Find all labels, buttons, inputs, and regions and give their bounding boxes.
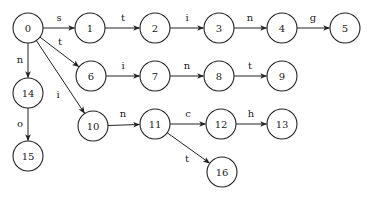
- node-label: 14: [22, 88, 35, 99]
- node-label: 15: [22, 151, 35, 162]
- node-13: 13: [267, 109, 297, 139]
- node-5: 5: [330, 13, 360, 43]
- node-label: 10: [87, 121, 100, 132]
- edge-label: n: [184, 60, 191, 71]
- node-label: 9: [279, 71, 285, 82]
- node-6: 6: [76, 61, 106, 91]
- node-8: 8: [204, 61, 234, 91]
- edge-10-11: n: [108, 108, 140, 126]
- node-7: 7: [140, 61, 170, 91]
- node-label: 0: [25, 23, 31, 34]
- edge-6-7: i: [106, 60, 140, 76]
- edge-label: i: [121, 60, 124, 71]
- edge-1-2: t: [105, 12, 140, 28]
- edge-0-6: t: [40, 36, 79, 67]
- trie-diagram: stingtintnoincht 01234567891415101112131…: [0, 0, 368, 202]
- edge-label: n: [120, 108, 127, 119]
- node-label: 1: [87, 23, 93, 34]
- edge-label: i: [56, 89, 59, 100]
- node-label: 13: [276, 119, 289, 130]
- edge-label: t: [248, 60, 252, 71]
- node-16: 16: [207, 157, 237, 187]
- edge-0-1: s: [43, 12, 75, 28]
- edge-3-4: n: [234, 12, 267, 28]
- node-label: 8: [216, 71, 222, 82]
- edge-11-16: t: [167, 133, 209, 164]
- edge-label: t: [185, 153, 189, 164]
- edge-label: t: [121, 12, 125, 23]
- node-1: 1: [75, 13, 105, 43]
- node-4: 4: [267, 13, 297, 43]
- edge-label: i: [185, 12, 188, 23]
- edge-14-15: o: [17, 108, 28, 141]
- node-label: 11: [149, 119, 162, 130]
- node-label: 2: [152, 23, 158, 34]
- edge-0-14: n: [17, 43, 28, 78]
- edge-label: t: [58, 36, 62, 47]
- edge-label: s: [56, 12, 61, 23]
- edge-2-3: i: [170, 12, 204, 28]
- node-11: 11: [140, 109, 170, 139]
- node-label: 16: [216, 167, 229, 178]
- edge-4-5: g: [297, 12, 330, 28]
- node-2: 2: [140, 13, 170, 43]
- node-12: 12: [206, 109, 236, 139]
- node-3: 3: [204, 13, 234, 43]
- edge-label: n: [247, 12, 254, 23]
- node-label: 5: [342, 23, 348, 34]
- node-14: 14: [13, 78, 43, 108]
- diagram-canvas: stingtintnoincht 01234567891415101112131…: [0, 0, 368, 202]
- arrow-icon: [108, 124, 140, 125]
- edge-label: n: [17, 54, 24, 65]
- node-label: 6: [88, 71, 94, 82]
- node-label: 12: [215, 119, 228, 130]
- edge-11-12: c: [170, 108, 206, 124]
- node-0: 0: [13, 13, 43, 43]
- node-label: 3: [216, 23, 222, 34]
- edge-label: c: [185, 108, 191, 119]
- node-9: 9: [267, 61, 297, 91]
- edge-label: g: [310, 12, 317, 23]
- node-label: 4: [279, 23, 285, 34]
- edge-label: o: [17, 118, 23, 129]
- node-label: 7: [152, 71, 158, 82]
- node-15: 15: [13, 141, 43, 171]
- edge-8-9: t: [234, 60, 267, 76]
- node-10: 10: [78, 111, 108, 141]
- edge-label: h: [248, 108, 255, 119]
- edge-7-8: n: [170, 60, 204, 76]
- edge-12-13: h: [236, 108, 267, 124]
